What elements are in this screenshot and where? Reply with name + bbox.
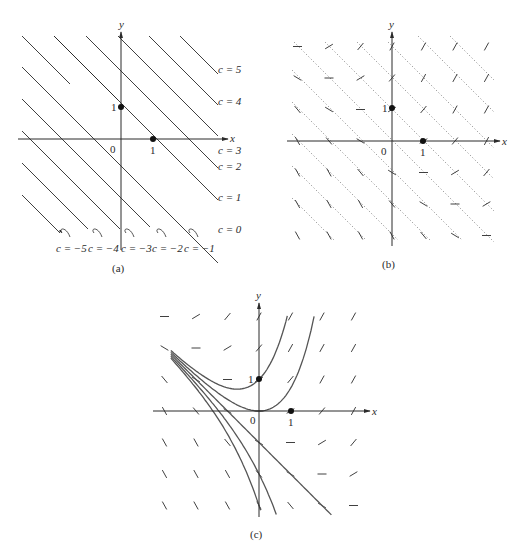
label-c0: c = 0	[218, 223, 242, 235]
label-c5: c = 5	[218, 63, 242, 75]
figure-canvas: y x 0 1 1 c = 5 c = 4 c = 3 c = 2 c = 1 …	[0, 0, 523, 554]
label-cm1: c = −1	[184, 242, 215, 254]
label-c1: c = 1	[218, 191, 241, 203]
label-c3: c = 3	[218, 144, 242, 156]
dotted-isoclines	[292, 36, 494, 242]
x-axis-label: x	[229, 132, 235, 144]
x-axis-label: x	[371, 405, 377, 417]
caption-a: (a)	[112, 262, 125, 275]
y-axis-label: y	[255, 289, 261, 301]
point-0-1	[256, 376, 262, 382]
caption-c: (c)	[250, 528, 263, 541]
label-arrows	[61, 229, 198, 237]
x-tick-label: 1	[150, 144, 156, 156]
y-axis-label: y	[118, 18, 124, 30]
panel-b: y x 0 1 1 (b)	[287, 18, 507, 271]
isocline-lines	[22, 36, 218, 263]
point-0-1	[118, 104, 124, 110]
point-1-0	[420, 138, 426, 144]
label-cm4: c = −4	[88, 242, 119, 254]
panel-a: y x 0 1 1 c = 5 c = 4 c = 3 c = 2 c = 1 …	[18, 18, 242, 275]
x-axis-label: x	[501, 135, 507, 147]
y-tick-label: 1	[111, 101, 117, 113]
point-1-0	[150, 136, 156, 142]
right-c-labels: c = 5 c = 4 c = 3 c = 2 c = 1 c = 0	[218, 63, 242, 235]
bottom-c-labels: c = −5 c = −4 c = −3 c = −2 c = −1	[56, 242, 215, 254]
origin-label: 0	[250, 414, 256, 426]
point-0-1	[389, 105, 395, 111]
y-tick-label: 1	[248, 373, 254, 385]
y-tick-label: 1	[382, 102, 388, 114]
point-1-0	[288, 408, 294, 414]
label-c2: c = 2	[218, 160, 242, 172]
y-axis-label: y	[388, 18, 394, 30]
label-cm5: c = −5	[56, 242, 87, 254]
x-tick-label: 1	[420, 146, 426, 158]
caption-b: (b)	[382, 258, 395, 271]
label-cm3: c = −3	[121, 242, 152, 254]
origin-label: 0	[381, 145, 387, 157]
origin-label: 0	[110, 143, 116, 155]
label-c4: c = 4	[218, 95, 242, 107]
label-cm2: c = −2	[152, 242, 183, 254]
panel-c: y x 0 1 1 (c)	[153, 289, 377, 541]
x-tick-label: 1	[288, 416, 294, 428]
